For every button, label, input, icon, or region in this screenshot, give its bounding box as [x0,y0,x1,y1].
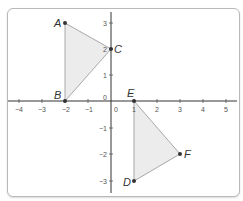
point-b [63,99,67,103]
y-tick-label: 2 [103,46,107,53]
point-a [63,21,67,25]
y-tick-label: 0 [103,94,107,101]
x-tick-label: 3 [178,106,182,113]
label-b: B [54,89,61,101]
point-e [132,99,136,103]
x-tick-label: −3 [38,106,46,113]
y-tick-label: 1 [103,72,107,79]
label-a: A [53,17,61,29]
label-d: D [123,176,131,188]
x-tick-label: 4 [201,106,205,113]
y-tick-label: −1 [99,125,107,132]
triangle-abc [65,23,111,101]
point-c [109,47,113,51]
triangle-def [134,101,180,181]
y-tick-label: −2 [99,151,107,158]
point-f [178,152,182,156]
x-tick-label: −4 [15,106,23,113]
x-tick-label: −2 [62,106,70,113]
point-d [132,179,136,183]
label-f: F [184,148,192,160]
x-tick-label: 0 [114,106,118,113]
label-c: C [114,43,122,55]
y-tick-label: 3 [103,20,107,27]
y-tick-label: −3 [99,178,107,185]
coordinate-plane: −4 −3 −2 −1 0 1 2 3 4 5 −3 −2 −1 0 1 2 3… [0,0,243,201]
x-tick-label: 1 [132,106,136,113]
x-tick-label: −1 [85,106,93,113]
x-tick-label: 2 [155,106,159,113]
label-e: E [127,87,135,99]
x-tick-label: 5 [224,106,228,113]
